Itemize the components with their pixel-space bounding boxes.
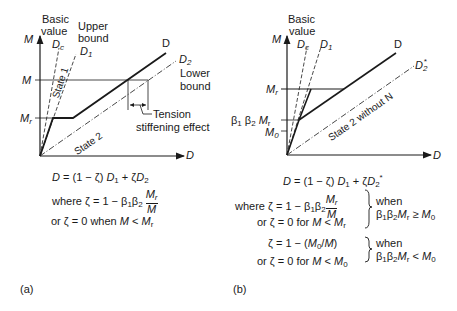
equation-case1-line2: or ζ = 0 for M < Mr [257,216,346,232]
y-axis-label: M [272,33,281,45]
m-level-label: M [22,74,31,86]
d2star-line [287,66,414,155]
case1-condition: β1β2Mr ≥ M0 [376,208,435,224]
mr-level-label: Mr [266,83,278,99]
equation-case2-line1: ζ = 1 − (M0/M) [268,237,337,253]
x-axis-label: D [433,149,441,161]
basic-value-label: Basic [288,13,315,25]
mr-level-label: Mr [20,112,32,128]
equation-main: D = (1 − ζ) D1 + ζD2 [52,171,149,187]
panel-a: Basic value Upper bound M Dc D1 D D2 Low… [0,0,228,311]
y-axis-label: M [24,33,33,45]
basic-value-label: Basic [42,13,69,25]
caption-b: (b) [233,283,246,295]
tension-label-2: stiffening effect [136,121,210,133]
d1-label: D1 [320,38,332,54]
lower-bound-label-2: bound [180,80,211,92]
x-axis-label: D [186,149,194,161]
d-label: D [394,38,402,50]
case1-when: when [376,195,402,207]
equation-or: or ζ = 0 when M < Mr [51,215,153,231]
d2star-label: D2* [415,56,427,75]
lower-bound-label: Lower [180,67,210,79]
m0-level-label: M0 [265,126,279,142]
d1-label: D1 [80,45,92,61]
panel-b: Basic value M Dc D1 D D2* Mr β1 β2 Mr M0… [228,0,457,311]
equation-case2-line2: or ζ = 0 for M < M0 [257,255,348,271]
d-label: D [162,37,170,49]
basic-value-label-2: value [41,25,67,37]
case2-condition: β1β2Mr < M0 [376,250,436,266]
dc-label: Dc [297,38,309,54]
tension-label: Tension [153,108,191,120]
caption-a: (a) [20,283,33,295]
dc-label: Dc [52,38,64,54]
d-curve-lower [287,89,311,155]
d-curve-upper [299,53,396,120]
case2-when: when [376,237,402,249]
equation-where: where ζ = 1 − β1β2 Mr M [52,189,158,215]
upper-bound-label-2: bound [78,32,109,44]
basic-value-label-2: value [289,25,315,37]
dc-line [40,48,59,156]
equation-main: D = (1 − ζ) D1 + ζD2* [283,171,383,191]
upper-bound-label: Upper [78,20,108,32]
